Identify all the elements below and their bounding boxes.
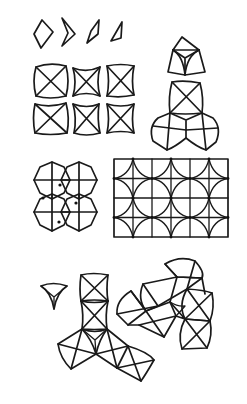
grid-lattice (113, 158, 230, 239)
tripod-cluster (58, 274, 154, 382)
kite-sequence (34, 18, 122, 48)
geometric-diagram (0, 0, 247, 404)
triad-stack (151, 37, 218, 150)
small-triangle (41, 284, 67, 310)
four-circle-rosette (34, 162, 97, 231)
flower-cluster (117, 259, 213, 349)
square-tiles (34, 64, 135, 135)
